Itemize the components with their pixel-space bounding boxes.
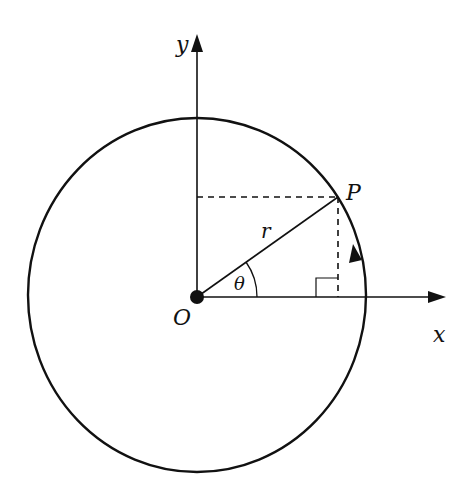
point-p-label: P bbox=[345, 180, 362, 205]
circular-motion-diagram: y x O P r θ bbox=[0, 0, 476, 489]
y-axis-label: y bbox=[175, 32, 189, 57]
radius-line bbox=[197, 197, 338, 297]
origin-label: O bbox=[173, 305, 191, 330]
x-axis-label: x bbox=[433, 322, 446, 347]
y-axis-arrow-icon bbox=[191, 34, 203, 52]
angle-arc bbox=[246, 262, 257, 297]
angle-label: θ bbox=[234, 273, 245, 294]
x-axis-arrow-icon bbox=[428, 291, 446, 303]
right-angle-marker bbox=[316, 278, 338, 297]
radius-label: r bbox=[261, 219, 272, 243]
origin-point bbox=[190, 290, 204, 304]
